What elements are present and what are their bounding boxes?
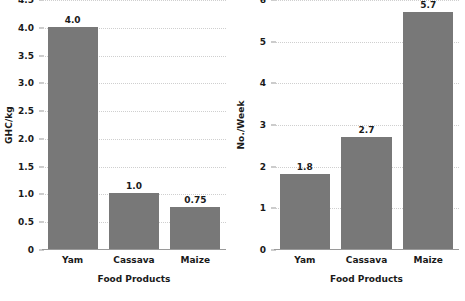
chart-panel-left: GHC/kg 00.51.01.52.02.53.03.54.04.5 4.01… [0,0,232,301]
y-axis-title-left-text: GHC/kg [4,106,14,144]
y-axis-ticks-left: 00.51.01.52.02.53.03.54.04.5 [14,0,38,250]
bar-slot: 1.0 [103,0,164,249]
x-category-label: Maize [397,252,459,268]
y-tick-label: 4 [260,78,266,88]
bar: 1.8 [280,174,331,249]
y-tick-label: 1.5 [18,162,34,172]
bar: 5.7 [403,12,454,250]
y-tick-label: 3 [260,120,266,130]
y-tick-label: 6 [260,0,266,5]
y-tick-label: 2.0 [18,134,34,144]
y-tick-label: 0.5 [18,217,34,227]
x-axis-categories-right: YamCassavaMaize [274,252,459,268]
x-category-label: Yam [42,252,103,268]
bar-slot: 5.7 [397,0,459,249]
y-tick-label: 4.0 [18,23,34,33]
y-tick-label: 0 [28,245,34,255]
x-axis-title-right: Food Products [274,272,459,286]
y-tick-label: 4.5 [18,0,34,5]
figure: GHC/kg 00.51.01.52.02.53.03.54.04.5 4.01… [0,0,465,301]
bar: 2.7 [341,137,392,250]
plot-area-right: 1.82.75.7 [274,0,459,250]
bar-slot: 0.75 [165,0,226,249]
bar-value-label: 2.7 [359,125,375,135]
y-axis-title-right-text: No./Week [236,100,246,149]
x-axis-title-left: Food Products [42,272,226,286]
y-tick-label: 3.0 [18,78,34,88]
bar: 1.0 [109,193,159,249]
bar: 4.0 [48,27,98,249]
bar-value-label: 1.8 [297,162,313,172]
bar-value-label: 4.0 [65,15,81,25]
y-tick-label: 3.5 [18,51,34,61]
x-category-label: Cassava [103,252,164,268]
x-category-label: Cassava [336,252,398,268]
x-axis-categories-left: YamCassavaMaize [42,252,226,268]
y-tick-label: 2 [260,162,266,172]
bar: 0.75 [170,207,220,249]
y-tick-label: 2.5 [18,106,34,116]
x-category-label: Maize [165,252,226,268]
plot-area-left: 4.01.00.75 [42,0,226,250]
bar-slot: 2.7 [336,0,398,249]
y-tick-label: 5 [260,37,266,47]
bar-series-right: 1.82.75.7 [274,0,459,249]
y-tick-label: 1 [260,203,266,213]
bar-series-left: 4.01.00.75 [42,0,226,249]
x-category-label: Yam [274,252,336,268]
bar-value-label: 1.0 [126,181,142,191]
bar-value-label: 5.7 [420,0,436,10]
chart-panel-right: No./Week 0123456 1.82.75.7 YamCassavaMai… [232,0,465,301]
y-axis-ticks-right: 0123456 [246,0,270,250]
y-tick-label: 0 [260,245,266,255]
bar-slot: 1.8 [274,0,336,249]
bar-slot: 4.0 [42,0,103,249]
y-tick-label: 1.0 [18,189,34,199]
bar-value-label: 0.75 [184,195,206,205]
